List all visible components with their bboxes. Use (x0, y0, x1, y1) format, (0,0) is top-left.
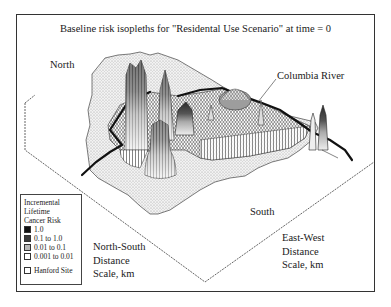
legend-item-1: 1.0 (24, 225, 78, 234)
river-leader-line (258, 79, 276, 102)
legend-item-site: Hanford Site (24, 266, 78, 275)
legend-swatch-white (24, 253, 31, 260)
legend-item-3: 0.01 to 0.1 (24, 243, 78, 252)
north-south-axis-label: North-South Distance Scale, km (93, 240, 146, 281)
legend-swatch-black (24, 226, 31, 233)
ns-axis-line-3: Scale, km (93, 267, 146, 281)
columbia-river-label: Columbia River (277, 69, 344, 82)
north-label: North (50, 58, 75, 71)
south-label: South (250, 205, 275, 218)
east-west-axis-label: East-West Distance Scale, km (282, 231, 324, 272)
ew-axis-line-2: Distance (282, 245, 324, 259)
ew-axis-line-3: Scale, km (282, 258, 324, 272)
risk-legend: Incremental Lifetime Cancer Risk 1.0 0.1… (20, 194, 82, 285)
legend-title: Incremental Lifetime Cancer Risk (24, 198, 78, 225)
ew-axis-line-1: East-West (282, 231, 324, 245)
legend-swatch-dark-gray (24, 235, 31, 242)
legend-item-2: 0.1 to 1.0 (24, 234, 78, 243)
ns-axis-line-1: North-South (93, 240, 146, 254)
legend-swatch-light-gray (24, 244, 31, 251)
legend-swatch-site (24, 267, 31, 274)
ns-axis-line-2: Distance (93, 254, 146, 268)
legend-item-4: 0.001 to 0.01 (24, 252, 78, 261)
